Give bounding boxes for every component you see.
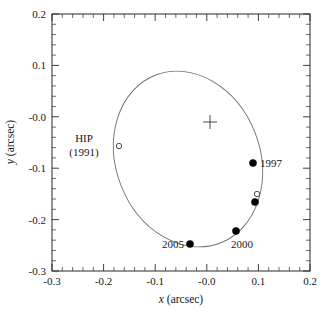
marker-mid: [251, 198, 258, 205]
orbit-ellipse: [89, 49, 288, 269]
y-tick-label-3: -0.1: [29, 162, 46, 174]
orbit-plot-svg: HIP (1991) 1997 2000 2005 -0.3 -0.2 -0.1…: [0, 0, 330, 314]
x-tick-label-3: -0.0: [198, 275, 216, 287]
x-tick-label-5: 0.2: [303, 275, 317, 287]
marker-hip-1991: [116, 143, 121, 148]
primary-star-cross-icon: [203, 115, 217, 129]
x-tick-label-1: -0.2: [95, 275, 112, 287]
y-tick-label-1: 0.1: [32, 59, 46, 71]
x-axis-title: x (arcsec): [158, 293, 204, 306]
data-markers: [116, 143, 259, 247]
y-axis-title-unit: (arcsec): [4, 120, 17, 159]
y-tick-label-4: -0.2: [29, 214, 46, 226]
marker-open-mid: [254, 191, 259, 196]
label-2000: 2000: [231, 238, 254, 250]
label-1997: 1997: [260, 157, 283, 169]
y-tick-label-2: -0.0: [29, 111, 47, 123]
x-tick-label-4: 0.1: [252, 275, 266, 287]
marker-1997: [249, 159, 256, 166]
x-tick-label-2: -0.1: [146, 275, 163, 287]
label-2005: 2005: [162, 238, 185, 250]
y-axis-title: y (arcsec): [4, 120, 17, 166]
x-axis-title-unit: (arcsec): [164, 293, 203, 306]
hip-label-line1: HIP: [75, 132, 93, 144]
marker-2000: [232, 227, 239, 234]
y-tick-label-0: 0.2: [32, 8, 46, 20]
orbit-figure: HIP (1991) 1997 2000 2005 -0.3 -0.2 -0.1…: [0, 0, 330, 314]
y-tick-label-5: -0.3: [29, 265, 47, 277]
marker-2005: [186, 240, 193, 247]
hip-label-line2: (1991): [69, 146, 99, 159]
